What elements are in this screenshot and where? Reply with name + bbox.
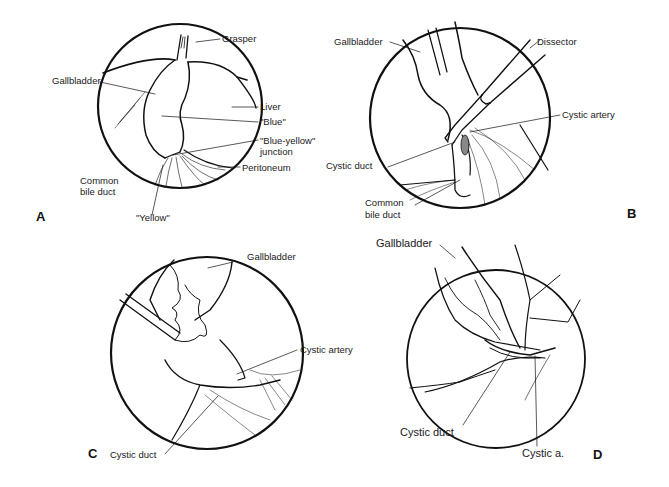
label-cystic-duct: Cystic duct: [110, 449, 156, 460]
label-cystic-a: Cystic a.: [522, 447, 564, 460]
laparoscopic-cholecystectomy-illustration: [0, 0, 669, 487]
label-gallbladder: Gallbladder: [52, 75, 101, 86]
label-cystic-artery: Cystic artery: [562, 109, 615, 120]
label-common: Common: [365, 197, 404, 208]
label-liver: Liver: [260, 101, 281, 112]
panel-letter-d: D: [593, 447, 602, 462]
label-gallbladder: Gallbladder: [247, 251, 296, 262]
label-gallbladder: Gallbladder: [334, 36, 383, 47]
panel-a-drawing: [98, 24, 262, 215]
panel-c-drawing: [111, 257, 303, 454]
label-cystic-artery: Cystic artery: [300, 344, 353, 355]
label-blue: "Blue": [260, 116, 286, 127]
label-common: Common: [80, 175, 119, 186]
label-gallbladder: Gallbladder: [376, 237, 432, 250]
label-dissector: Dissector: [537, 36, 577, 47]
label-blue-yellow: "Blue-yellow": [260, 135, 315, 146]
label-cystic-duct: Cystic duct: [326, 160, 372, 171]
label-yellow: "Yellow": [136, 212, 170, 223]
label-peritoneum: Peritoneum: [242, 162, 291, 173]
label-bile-duct: bile duct: [365, 209, 400, 220]
label-bile-duct: bile duct: [80, 186, 115, 197]
label-cystic-duct: Cystic duct: [400, 426, 454, 439]
label-grasper: Grasper: [222, 33, 256, 44]
label-junction: junction: [260, 146, 293, 157]
panel-letter-a: A: [36, 209, 45, 224]
panel-letter-c: C: [88, 446, 97, 461]
panel-d-drawing: [407, 245, 585, 448]
panel-letter-b: B: [627, 206, 636, 221]
panel-b-drawing: [370, 22, 560, 208]
